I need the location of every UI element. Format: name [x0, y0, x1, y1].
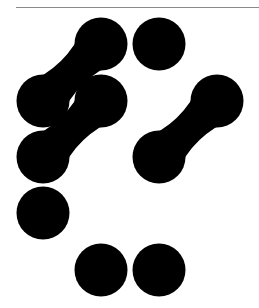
circle-shape	[133, 18, 186, 71]
circle-shape	[133, 244, 186, 297]
circle-shape	[133, 131, 186, 184]
circle-shape	[75, 244, 128, 297]
blob-pattern-graphic	[0, 0, 259, 308]
circle-shape	[75, 75, 128, 128]
circle-shape	[191, 75, 244, 128]
circle-shape	[17, 131, 70, 184]
connected-blob-shape	[133, 75, 244, 184]
circle-shape	[75, 18, 128, 71]
circle-shape	[17, 187, 70, 240]
